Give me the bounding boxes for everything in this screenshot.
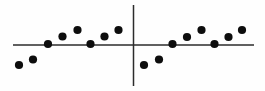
data-point xyxy=(44,40,52,48)
plot-canvas xyxy=(0,0,265,91)
data-point xyxy=(86,40,94,48)
data-point xyxy=(210,40,218,48)
data-point xyxy=(197,26,205,34)
data-point xyxy=(73,26,81,34)
scatter-plot-figure xyxy=(0,0,265,91)
data-point xyxy=(140,61,148,69)
data-point xyxy=(15,61,23,69)
data-point xyxy=(100,32,108,40)
data-point xyxy=(58,32,66,40)
data-point xyxy=(224,33,232,41)
data-point xyxy=(29,55,37,63)
data-point xyxy=(168,40,176,48)
data-point xyxy=(238,26,246,34)
data-point xyxy=(155,55,163,63)
data-point xyxy=(114,26,122,34)
data-point xyxy=(183,33,191,41)
data-points-group xyxy=(15,26,246,69)
